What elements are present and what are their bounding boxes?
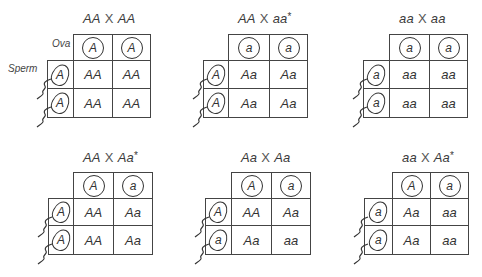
offspring-genotype: AA xyxy=(85,233,102,248)
offspring-genotype: Aa xyxy=(241,67,257,82)
sperm-allele: A xyxy=(212,67,220,81)
asterisk-marker: * xyxy=(134,150,138,161)
sperm-tail-icon xyxy=(191,105,211,129)
egg-icon: A xyxy=(121,37,143,59)
ova-header-cell: A xyxy=(112,34,151,61)
ova-allele: A xyxy=(89,41,97,55)
offspring-genotype-cell: Aa xyxy=(392,225,431,255)
ova-allele: a xyxy=(288,179,295,193)
offspring-genotype-cell: Aa xyxy=(269,88,308,118)
ova-allele: a xyxy=(406,41,413,55)
ova-header-cell: a xyxy=(271,172,311,199)
cross-symbol: X xyxy=(261,150,270,165)
offspring-genotype: Aa xyxy=(281,67,297,82)
offspring-genotype-cell: AA xyxy=(73,60,113,89)
egg-icon: A xyxy=(82,37,104,59)
offspring-genotype: Aa xyxy=(283,205,299,220)
ova-header-cell: A xyxy=(73,34,113,61)
parent-genotype-right: Aa xyxy=(274,150,290,165)
ova-allele: A xyxy=(247,179,255,193)
offspring-genotype: AA xyxy=(123,96,140,111)
cross-symbol: X xyxy=(421,150,430,165)
ova-allele: a xyxy=(246,41,253,55)
cross-symbol: X xyxy=(105,11,114,26)
offspring-genotype-cell: Aa xyxy=(113,225,153,255)
sperm-label: Sperm xyxy=(8,63,37,74)
sperm-allele: A xyxy=(56,96,64,110)
sperm-allele: a xyxy=(375,205,382,219)
offspring-genotype: aa xyxy=(284,233,298,248)
parent-genotype-right: Aa xyxy=(434,150,450,165)
egg-icon: a xyxy=(122,175,144,197)
ova-header-cell: A xyxy=(231,172,272,199)
offspring-genotype-cell: AA xyxy=(112,60,151,89)
sperm-allele: a xyxy=(215,233,222,247)
parent-genotype-left: AA xyxy=(83,11,101,26)
offspring-genotype-cell: aa xyxy=(389,60,430,89)
offspring-genotype-cell: Aa xyxy=(392,198,431,226)
egg-icon: a xyxy=(399,37,421,59)
cross-symbol: X xyxy=(418,11,427,26)
cross-title: AaXAa xyxy=(241,150,291,165)
ova-allele: A xyxy=(127,41,135,55)
parent-genotype-left: aa xyxy=(399,11,414,26)
egg-icon: A xyxy=(241,175,263,197)
offspring-genotype: aa xyxy=(442,205,456,220)
ova-allele: A xyxy=(89,179,97,193)
sperm-tail-icon xyxy=(351,105,371,129)
offspring-genotype: aa xyxy=(441,67,455,82)
offspring-genotype-cell: aa xyxy=(389,88,430,118)
parent-genotype-left: AA xyxy=(238,11,256,26)
sperm-tail-icon xyxy=(35,105,55,129)
cross-symbol: X xyxy=(105,150,114,165)
cross-title: AAXAA xyxy=(83,11,135,26)
offspring-genotype: AA xyxy=(84,96,101,111)
offspring-genotype-cell: Aa xyxy=(228,60,270,89)
ova-header-cell: a xyxy=(269,34,308,61)
offspring-genotype: AA xyxy=(123,67,140,82)
offspring-genotype: aa xyxy=(442,233,456,248)
offspring-genotype: aa xyxy=(402,67,416,82)
cross-title: aaXAa* xyxy=(402,150,454,165)
egg-icon: a xyxy=(438,37,460,59)
sperm-allele: A xyxy=(56,67,64,81)
offspring-genotype-cell: AA xyxy=(231,198,272,226)
ova-header-cell: a xyxy=(113,172,153,199)
offspring-genotype-cell: Aa xyxy=(113,198,153,226)
offspring-genotype-cell: aa xyxy=(429,60,468,89)
sperm-allele: a xyxy=(373,96,380,110)
ova-header-cell: a xyxy=(228,34,270,61)
offspring-genotype-cell: Aa xyxy=(269,60,308,89)
egg-icon: a xyxy=(238,37,260,59)
offspring-genotype: Aa xyxy=(241,96,257,111)
offspring-genotype: Aa xyxy=(244,233,260,248)
egg-icon: a xyxy=(278,37,300,59)
offspring-genotype-cell: Aa xyxy=(228,88,270,118)
ova-header-cell: a xyxy=(429,34,468,61)
cross-title: aaXaa xyxy=(399,11,446,26)
sperm-tail-icon xyxy=(193,242,213,266)
offspring-genotype-cell: aa xyxy=(271,225,311,255)
ova-allele: A xyxy=(407,179,415,193)
egg-icon: a xyxy=(280,175,302,197)
asterisk-marker: * xyxy=(450,150,454,161)
offspring-genotype-cell: aa xyxy=(429,88,468,118)
egg-icon: A xyxy=(401,175,423,197)
ova-allele: a xyxy=(446,179,453,193)
parent-genotype-left: Aa xyxy=(241,150,257,165)
ova-header-cell: A xyxy=(392,172,431,199)
offspring-genotype: aa xyxy=(441,96,455,111)
ova-header-cell: a xyxy=(389,34,430,61)
sperm-tail-icon xyxy=(352,242,372,266)
ova-label: Ova xyxy=(52,38,70,49)
offspring-genotype: AA xyxy=(84,67,101,82)
cross-title: AAXAa* xyxy=(83,150,138,165)
sperm-allele: a xyxy=(373,68,380,82)
asterisk-marker: * xyxy=(288,11,292,22)
parent-genotype-right: aa xyxy=(431,11,446,26)
egg-icon: a xyxy=(439,175,461,197)
parent-genotype-right: aa xyxy=(273,11,288,26)
sperm-allele: A xyxy=(57,205,65,219)
offspring-genotype: Aa xyxy=(404,233,420,248)
sperm-tail-icon xyxy=(36,242,56,266)
